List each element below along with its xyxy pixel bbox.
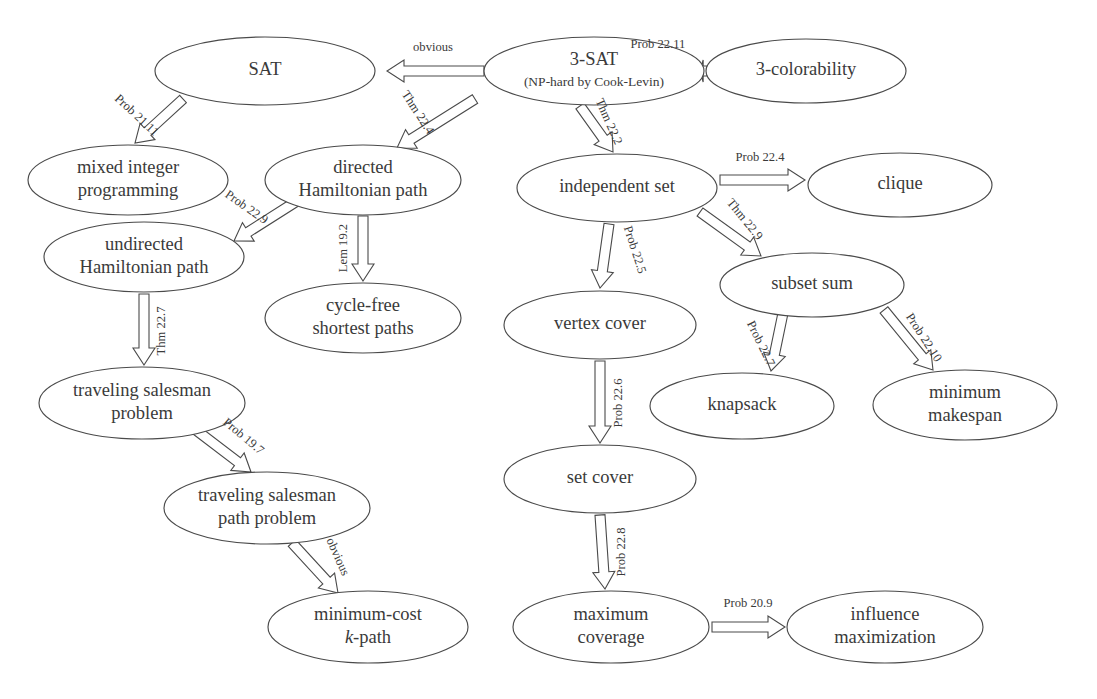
reduction-diagram: SAT3-SAT(NP-hard by Cook-Levin)3-colorab… bbox=[0, 0, 1097, 699]
node-setcover[interactable]: set cover bbox=[504, 445, 696, 513]
node-tsp[interactable]: traveling salesmanproblem bbox=[39, 367, 245, 439]
node-kpath[interactable]: minimum-costk-path bbox=[268, 591, 468, 663]
node-label-threecolor: 3-colorability bbox=[756, 59, 857, 79]
node-sublabel-tsppath: path problem bbox=[218, 508, 317, 528]
edge-arrow-e-3sat-sat bbox=[387, 60, 484, 82]
node-label-cyclefree: cycle-free bbox=[326, 295, 400, 315]
node-label-indset: independent set bbox=[559, 176, 675, 196]
node-sublabel-kpath: k-path bbox=[345, 627, 391, 647]
edge-label-e-vertexcover-setcover: Prob 22.6 bbox=[611, 379, 625, 428]
nodes-layer: SAT3-SAT(NP-hard by Cook-Levin)3-colorab… bbox=[28, 37, 1057, 663]
node-label-sat: SAT bbox=[249, 59, 282, 79]
node-knapsack[interactable]: knapsack bbox=[650, 373, 834, 439]
node-tsppath[interactable]: traveling salesmanpath problem bbox=[164, 472, 370, 544]
node-label-undirham: undirected bbox=[105, 234, 184, 254]
node-sublabel-dirham: Hamiltonian path bbox=[299, 180, 428, 200]
reduction-graph-canvas: SAT3-SAT(NP-hard by Cook-Levin)3-colorab… bbox=[0, 0, 1097, 699]
node-indset[interactable]: independent set bbox=[517, 154, 717, 222]
node-influence[interactable]: influencemaximization bbox=[787, 591, 983, 663]
node-sublabel-cyclefree: shortest paths bbox=[312, 318, 413, 338]
node-vertexcover[interactable]: vertex cover bbox=[504, 291, 696, 359]
node-undirham[interactable]: undirectedHamiltonian path bbox=[44, 222, 244, 292]
node-threecolor[interactable]: 3-colorability bbox=[706, 39, 906, 103]
node-sublabel-tsp: problem bbox=[111, 403, 173, 423]
edge-label-e-setcover-maxcov: Prob 22.8 bbox=[614, 528, 628, 577]
edge-arrow-e-indset-vertexcover bbox=[591, 223, 613, 288]
node-sublabel-makespan: makespan bbox=[928, 405, 1002, 425]
node-label-dirham: directed bbox=[333, 157, 393, 177]
node-label-threesat: 3-SAT bbox=[570, 49, 618, 69]
edge-label-e-sat-mip: Prob 21.11 bbox=[112, 91, 162, 139]
node-label-mip: mixed integer bbox=[77, 157, 179, 177]
node-label-subsetsum: subset sum bbox=[771, 273, 853, 293]
node-label-clique: clique bbox=[877, 173, 922, 193]
edge-label-e-indset-vertexcover: Prob 22.5 bbox=[621, 224, 649, 275]
node-label-vertexcover: vertex cover bbox=[554, 313, 646, 333]
edge-label-e-dirham-undirham: Prob 22.9 bbox=[223, 187, 271, 227]
node-makespan[interactable]: minimummakespan bbox=[873, 370, 1057, 440]
node-maxcov[interactable]: maximumcoverage bbox=[513, 591, 709, 663]
node-label-knapsack: knapsack bbox=[708, 394, 778, 414]
node-sublabel-threesat: (NP-hard by Cook-Levin) bbox=[524, 74, 664, 89]
node-sublabel-undirham: Hamiltonian path bbox=[80, 257, 209, 277]
node-label-makespan: minimum bbox=[929, 382, 1002, 402]
node-sublabel-maxcov: coverage bbox=[578, 627, 645, 647]
node-label-setcover: set cover bbox=[567, 467, 633, 487]
edge-arrow-e-dirham-cyclefree bbox=[352, 216, 374, 281]
node-label-tsp: traveling salesman bbox=[73, 380, 211, 400]
edge-label-e-undirham-tsp: Thm 22.7 bbox=[154, 307, 168, 356]
node-dirham[interactable]: directedHamiltonian path bbox=[265, 145, 461, 215]
node-sublabel-mip: programming bbox=[78, 180, 179, 200]
node-label-kpath: minimum-cost bbox=[314, 604, 423, 624]
edge-arrow-e-maxcov-influence bbox=[712, 616, 785, 638]
edge-label-e-dirham-cyclefree: Lem 19.2 bbox=[336, 224, 350, 272]
node-label-maxcov: maximum bbox=[573, 604, 649, 624]
node-subsetsum[interactable]: subset sum bbox=[720, 253, 904, 317]
edge-label-e-indset-clique: Prob 22.4 bbox=[736, 150, 786, 164]
edge-arrow-e-undirham-tsp bbox=[133, 294, 155, 365]
edge-label-e-maxcov-influence: Prob 20.9 bbox=[724, 596, 773, 610]
edge-arrow-e-indset-clique bbox=[720, 169, 805, 191]
edge-arrow-e-setcover-maxcov bbox=[593, 515, 615, 589]
edge-label-e-3sat-sat: obvious bbox=[413, 40, 453, 54]
node-label-influence: influence bbox=[851, 604, 920, 624]
node-label-tsppath: traveling salesman bbox=[198, 485, 336, 505]
edge-arrow-e-vertexcover-setcover bbox=[589, 361, 611, 443]
node-cyclefree[interactable]: cycle-freeshortest paths bbox=[265, 283, 461, 353]
node-mip[interactable]: mixed integerprogramming bbox=[28, 145, 228, 215]
edge-label-e-3sat-3color: Prob 22.11 bbox=[631, 37, 686, 51]
edge-label-e-tsppath-kpath: obvious bbox=[324, 535, 353, 577]
node-sat[interactable]: SAT bbox=[155, 37, 375, 105]
node-sublabel-influence: maximization bbox=[834, 627, 936, 647]
node-clique[interactable]: clique bbox=[808, 153, 992, 217]
